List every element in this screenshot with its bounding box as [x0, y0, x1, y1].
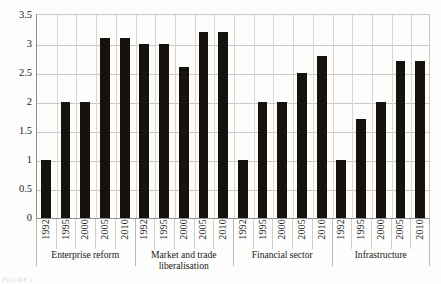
axis-tick-separator	[194, 219, 195, 249]
bar	[396, 61, 406, 218]
x-axis-year-label: 1992	[336, 219, 346, 240]
bar	[376, 102, 386, 218]
x-axis-year-cell: 2010	[410, 219, 430, 249]
x-axis-year-label: 2000	[376, 219, 386, 240]
axis-tick-separator	[174, 219, 175, 249]
x-axis-year-cell: 1995	[56, 219, 76, 249]
axis-group-separator	[332, 219, 333, 266]
axis-tick-separator	[351, 219, 352, 249]
x-axis-year-cell: 2000	[371, 219, 391, 249]
axis-tick-separator	[253, 219, 254, 249]
y-axis-tick-label: 3.5	[2, 10, 32, 21]
axis-group-separator	[135, 219, 136, 266]
axis-tick-separator	[410, 219, 411, 249]
x-axis-year-label: 1992	[41, 219, 51, 240]
x-axis-year-label: 1995	[258, 219, 268, 240]
bar	[356, 119, 366, 218]
x-axis-group-cell: Market and trade liberalisation	[135, 249, 234, 266]
axis-tick-separator	[371, 219, 372, 249]
bar	[277, 102, 287, 218]
x-axis-group-cell: Enterprise reform	[36, 249, 135, 266]
bar	[159, 44, 169, 218]
axis-tick-separator	[213, 219, 214, 249]
y-axis-tick-label: 0.5	[2, 184, 32, 195]
bar	[218, 32, 228, 218]
x-axis-year-cell: 2010	[213, 219, 233, 249]
axis-tick-separator	[154, 219, 155, 249]
x-axis-year-label: 1995	[61, 219, 71, 240]
bar	[41, 160, 51, 218]
y-axis-tick-label: 1.5	[2, 126, 32, 137]
bar	[80, 102, 90, 218]
x-axis-year-cell: 2000	[174, 219, 194, 249]
x-axis-year-label: 2010	[415, 219, 425, 240]
axis-tick-separator	[95, 219, 96, 249]
bar	[100, 38, 110, 218]
axis-group-separator	[233, 219, 234, 266]
x-axis-year-label: 2005	[198, 219, 208, 240]
x-axis-year-cell: 2000	[272, 219, 292, 249]
x-axis-year-cell: 2005	[391, 219, 411, 249]
x-axis: 1992199520002005201019921995200020052010…	[36, 219, 430, 266]
x-axis-group-cell: Financial sector	[233, 249, 332, 266]
chart-container: 00.511.522.533.5 19921995200020052010199…	[0, 0, 441, 284]
y-axis-tick-label: 1	[2, 155, 32, 166]
bar	[139, 44, 149, 218]
axis-group-separator	[36, 219, 37, 266]
x-axis-year-cell: 2000	[75, 219, 95, 249]
x-axis-year-label: 1992	[139, 219, 149, 240]
plot-area	[36, 14, 430, 219]
x-axis-year-cell: 2010	[115, 219, 135, 249]
x-axis-year-label: 2005	[395, 219, 405, 240]
x-axis-year-label: 1992	[238, 219, 248, 240]
figure-caption: FIGURE 1	[2, 276, 34, 283]
x-axis-year-cell: 1992	[233, 219, 253, 249]
x-axis-group-label: Financial sector	[252, 249, 313, 261]
x-axis-year-cell: 1992	[36, 219, 56, 249]
x-axis-year-label: 2005	[100, 219, 110, 240]
bar	[317, 56, 327, 218]
x-axis-year-label: 2010	[218, 219, 228, 240]
x-axis-group-cell: Infrastructure	[332, 249, 431, 266]
x-axis-year-label: 2010	[120, 219, 130, 240]
x-axis-year-label: 2000	[277, 219, 287, 240]
x-axis-year-cell: 1995	[154, 219, 174, 249]
x-axis-group-label: Infrastructure	[355, 249, 407, 261]
x-axis-year-cell: 1995	[253, 219, 273, 249]
axis-tick-separator	[292, 219, 293, 249]
x-axis-group-label: Enterprise reform	[51, 249, 119, 261]
x-axis-year-cell: 2005	[194, 219, 214, 249]
x-axis-year-label: 1995	[159, 219, 169, 240]
axis-group-separator	[429, 219, 430, 266]
x-axis-year-label: 2000	[179, 219, 189, 240]
axis-tick-separator	[272, 219, 273, 249]
x-axis-year-cell: 2005	[95, 219, 115, 249]
bar	[238, 160, 248, 218]
axis-tick-separator	[391, 219, 392, 249]
x-axis-year-cell: 1992	[135, 219, 155, 249]
y-axis-tick-label: 2	[2, 97, 32, 108]
x-axis-year-cell: 1995	[351, 219, 371, 249]
bar	[120, 38, 130, 218]
bar-series	[36, 14, 430, 219]
bar	[179, 67, 189, 218]
y-axis-tick-label: 0	[2, 213, 32, 224]
y-axis-tick-label: 2.5	[2, 68, 32, 79]
x-axis-group-label: Market and trade liberalisation	[135, 249, 234, 271]
bar	[297, 73, 307, 218]
x-axis-year-cell: 2010	[312, 219, 332, 249]
axis-tick-separator	[75, 219, 76, 249]
bar	[415, 61, 425, 218]
axis-tick-separator	[312, 219, 313, 249]
x-axis-year-label: 1995	[356, 219, 366, 240]
y-axis-tick-label: 3	[2, 39, 32, 50]
bar	[61, 102, 71, 218]
axis-tick-separator	[56, 219, 57, 249]
bar	[336, 160, 346, 218]
bar	[258, 102, 268, 218]
x-axis-year-label: 2000	[80, 219, 90, 240]
bar	[199, 32, 209, 218]
x-axis-year-cell: 2005	[292, 219, 312, 249]
x-axis-year-cell: 1992	[332, 219, 352, 249]
axis-tick-separator	[115, 219, 116, 249]
